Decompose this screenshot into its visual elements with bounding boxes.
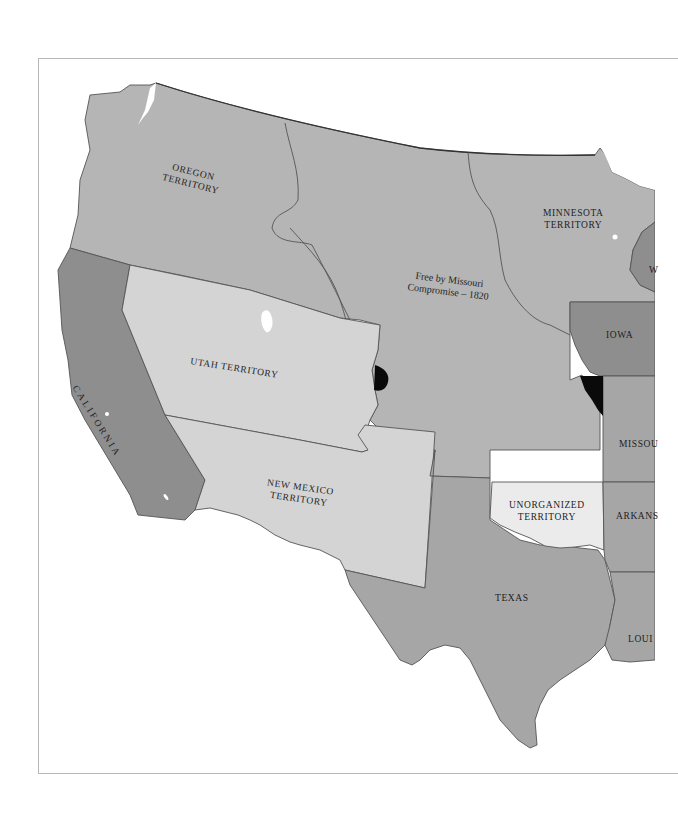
label-texas: TEXAS <box>495 592 529 604</box>
label-louisiana: LOUI <box>628 633 653 645</box>
region-louisiana <box>605 572 655 662</box>
label-minnesota-line1: MINNESOTA <box>543 207 604 219</box>
label-unorganized-territory: UNORGANIZED TERRITORY <box>509 499 585 523</box>
label-arkansas: ARKANS <box>616 510 659 522</box>
label-iowa: IOWA <box>606 329 633 341</box>
label-unorganized-line2: TERRITORY <box>509 511 585 523</box>
label-minnesota-line2: TERRITORY <box>543 219 604 231</box>
label-unorganized-line1: UNORGANIZED <box>509 499 585 511</box>
region-arkansas <box>603 482 655 572</box>
lake-spot <box>105 412 109 416</box>
lake-spot-minnesota <box>613 235 618 240</box>
label-wisconsin: W <box>649 264 659 276</box>
label-minnesota-territory: MINNESOTA TERRITORY <box>543 207 604 231</box>
label-missouri: MISSOU <box>619 438 659 450</box>
region-missouri <box>603 376 655 482</box>
